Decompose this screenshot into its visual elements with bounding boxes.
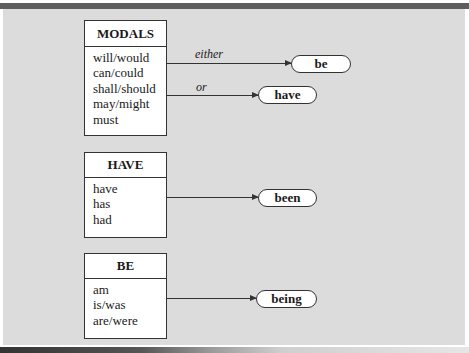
modals-box-items: will/would can/could shall/should may/mi… [85, 47, 166, 127]
target-being: being [256, 290, 317, 308]
modals-box-title: MODALS [85, 21, 166, 47]
have-box-title: HAVE [85, 153, 166, 178]
bottom-rule [0, 347, 469, 353]
modal-item: can/could [93, 65, 166, 80]
arrow-label-or: or [196, 80, 207, 95]
have-item: has [93, 196, 166, 211]
modal-item: will/would [93, 50, 166, 65]
be-box-items: am is/was are/were [85, 279, 166, 328]
be-item: are/were [93, 313, 166, 328]
modal-item: shall/should [93, 81, 166, 96]
be-box: BE am is/was are/were [84, 253, 167, 339]
modal-item: must [93, 112, 166, 127]
modal-item: may/might [93, 96, 166, 111]
be-item: am [93, 282, 166, 297]
target-been: been [258, 189, 317, 207]
arrow-either-be [167, 63, 291, 64]
target-have: have [258, 86, 317, 104]
arrow-be-being [167, 298, 256, 299]
diagram-panel [3, 9, 465, 345]
be-item: is/was [93, 297, 166, 312]
arrow-have-been [167, 197, 258, 198]
have-box-items: have has had [85, 178, 166, 227]
be-box-title: BE [85, 254, 166, 279]
have-box: HAVE have has had [84, 152, 167, 238]
have-item: had [93, 212, 166, 227]
arrow-or-have [167, 95, 258, 96]
have-item: have [93, 181, 166, 196]
modals-box: MODALS will/would can/could shall/should… [84, 20, 167, 136]
arrow-label-either: either [195, 47, 223, 62]
target-be: be [291, 55, 351, 73]
